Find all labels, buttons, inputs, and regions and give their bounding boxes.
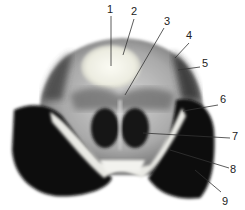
- label-8: 8: [230, 164, 236, 175]
- label-6: 6: [220, 94, 226, 105]
- brainstem-section-figure: [0, 0, 245, 210]
- label-1: 1: [107, 4, 113, 15]
- leader-line-4: [175, 43, 189, 58]
- label-7: 7: [232, 131, 238, 142]
- label-4: 4: [186, 30, 192, 41]
- label-5: 5: [202, 58, 208, 69]
- label-3: 3: [164, 16, 170, 27]
- label-2: 2: [131, 6, 137, 17]
- label-9: 9: [222, 196, 228, 207]
